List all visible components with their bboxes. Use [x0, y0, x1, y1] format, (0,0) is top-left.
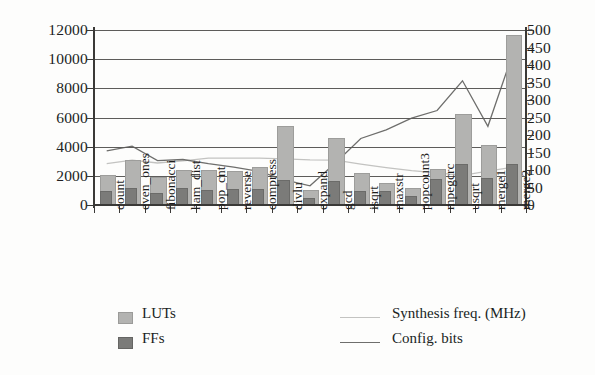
left-axis-tick-label: 10000 — [48, 50, 88, 68]
category-label: compress — [264, 159, 280, 210]
right-axis-tick — [526, 153, 534, 154]
legend-label-config-bits: Config. bits — [392, 330, 463, 347]
left-axis-tick-label: 4000 — [56, 138, 88, 156]
plot-area — [94, 30, 526, 205]
left-axis-tick-label: 6000 — [56, 109, 88, 127]
category-label: isqrt — [366, 186, 382, 210]
category-label: maxstr — [391, 173, 407, 210]
left-axis-tick-label: 12000 — [48, 21, 88, 39]
bar-ffs — [100, 191, 112, 205]
right-axis-tick — [526, 83, 534, 84]
category-label: gcd — [340, 191, 356, 211]
category-label: merge2 — [518, 170, 534, 210]
left-axis-tick-label: 8000 — [56, 79, 88, 97]
legend-swatch-synthesis-freq — [340, 317, 380, 318]
left-axis-tick-label: 2000 — [56, 167, 88, 185]
category-label: reverse — [239, 171, 255, 210]
left-axis-tick — [86, 118, 94, 119]
legend-swatch-luts — [118, 312, 133, 324]
gridline — [94, 88, 526, 89]
chart-legend: LUTs FFs Synthesis freq. (MHz) Config. b… — [0, 300, 595, 370]
category-label: mpegcrc — [442, 164, 458, 210]
category-label: pop_cnt — [213, 167, 229, 211]
legend-swatch-config-bits — [340, 342, 380, 343]
left-axis-tick — [86, 59, 94, 60]
category-label: expand — [315, 171, 331, 210]
left-axis-tick — [86, 147, 94, 148]
left-axis-tick — [86, 176, 94, 177]
left-axis-tick — [86, 30, 94, 31]
legend-label-ffs: FFs — [142, 330, 165, 347]
chart-figure: 020004000600080001000012000 050100150200… — [0, 0, 595, 375]
category-label: ham_dist — [188, 161, 204, 211]
left-axis-tick — [86, 88, 94, 89]
legend-swatch-ffs — [118, 337, 133, 349]
right-axis-tick — [526, 48, 534, 49]
legend-label-luts: LUTs — [142, 305, 176, 322]
right-axis-tick — [526, 118, 534, 119]
category-label: fibonacci — [163, 160, 179, 210]
bottom-axis-line — [93, 204, 527, 206]
category-label: divlu — [290, 182, 306, 210]
category-label: merge1 — [493, 170, 509, 210]
right-axis-tick — [526, 30, 534, 31]
category-label: popcount3 — [417, 153, 433, 210]
gridline — [94, 59, 526, 60]
category-label: count — [112, 180, 128, 210]
right-axis-tick — [526, 100, 534, 101]
gridline — [94, 30, 526, 31]
left-axis-tick — [86, 205, 94, 206]
legend-label-synthesis-freq: Synthesis freq. (MHz) — [392, 305, 526, 322]
category-tick — [94, 205, 95, 213]
category-label: even_ones — [137, 153, 153, 210]
right-axis-tick — [526, 65, 534, 66]
category-label: usqrt — [467, 183, 483, 210]
right-axis-tick — [526, 135, 534, 136]
